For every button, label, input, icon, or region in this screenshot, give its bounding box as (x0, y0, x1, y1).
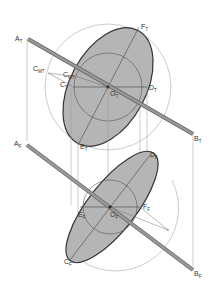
label-F-top: FT (141, 23, 148, 32)
front-view (27, 139, 193, 276)
label-C-top: CT (60, 81, 68, 90)
label-CMT-outer: CMT (33, 65, 45, 74)
label-A-top: AT (15, 35, 23, 44)
label-B-front: BF (194, 270, 202, 279)
front-construction-line-1 (140, 207, 168, 230)
top-view (28, 13, 193, 162)
label-D-top: DT (149, 84, 157, 93)
label-A-front: AF (14, 140, 22, 149)
front-center-point (109, 206, 112, 209)
label-B-top: BT (194, 135, 202, 144)
descriptive-geometry-drawing: AT BT FT CT DT OT ET CMT CMT AF BF DF EF… (0, 0, 216, 288)
